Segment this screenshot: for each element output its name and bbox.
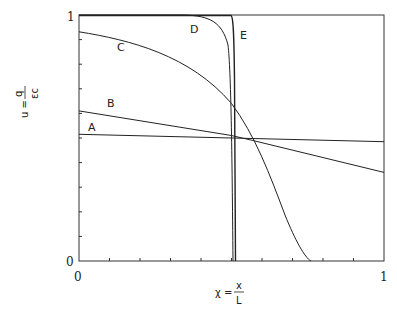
x-tick-1: 1 bbox=[380, 270, 388, 284]
svg-text:χ =: χ = bbox=[215, 287, 232, 298]
svg-text:L: L bbox=[236, 295, 242, 306]
y-tick-0: 0 bbox=[66, 255, 74, 269]
y-tick-1: 1 bbox=[67, 10, 75, 24]
y-axis-label: u = q εc bbox=[13, 86, 40, 118]
svg-text:u =: u = bbox=[19, 100, 30, 118]
chart: A B C D E 1 0 0 1 χ = x L u = q εc bbox=[0, 0, 397, 315]
svg-text:εc: εc bbox=[29, 88, 40, 99]
curve-label-b: B bbox=[107, 97, 115, 110]
svg-text:q: q bbox=[13, 91, 24, 97]
svg-text:x: x bbox=[236, 280, 242, 291]
curve-label-a: A bbox=[88, 121, 96, 134]
curve-label-c: C bbox=[117, 41, 125, 54]
x-tick-0: 0 bbox=[74, 270, 82, 284]
curve-label-e: E bbox=[240, 29, 247, 42]
x-axis-label: χ = x L bbox=[215, 280, 244, 306]
curve-label-d: D bbox=[190, 23, 198, 36]
